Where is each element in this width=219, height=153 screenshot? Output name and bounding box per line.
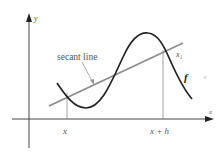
x-axis-arrow-icon (205, 116, 214, 122)
x-axis-label: x (208, 108, 213, 116)
intersection-label: x₁ (175, 50, 183, 59)
point-x-plus-h-label: x + h (149, 126, 170, 136)
point-x-label: x (62, 126, 67, 136)
secant-pointer-arrow-icon (90, 79, 94, 85)
y-axis-arrow-icon (26, 13, 32, 22)
secant-diagram: secant line y x x x + h x₁ f e (0, 0, 219, 153)
y-axis-label: y (33, 14, 38, 23)
secant-line-label: secant line (57, 52, 97, 62)
stray-mark: e (204, 74, 207, 80)
curve-label: f (184, 71, 189, 83)
